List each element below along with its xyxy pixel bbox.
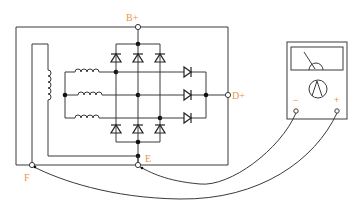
meter-plus-label: + (334, 95, 339, 105)
multimeter: − + (287, 42, 347, 119)
meter-gauge-arc (309, 63, 323, 70)
meter-minus-label: − (293, 95, 298, 105)
label-b-plus: B+ (126, 12, 139, 23)
terminal-b-plus[interactable] (135, 24, 140, 29)
rectifier-bridge (111, 30, 225, 162)
terminal-d-plus[interactable] (225, 92, 230, 97)
label-f: F (24, 172, 30, 183)
alternator-circuit-diagram: B+ D+ E F − + (0, 0, 363, 211)
stator-windings (63, 69, 160, 118)
label-d-plus: D+ (232, 90, 245, 101)
meter-minus-terminal[interactable] (294, 109, 298, 113)
label-e: E (145, 153, 151, 164)
meter-plus-terminal[interactable] (335, 109, 339, 113)
terminal-e[interactable] (135, 162, 140, 167)
exciter-diode-3 (184, 113, 191, 123)
test-lead-minus-to-e[interactable] (140, 113, 296, 184)
exciter-diode-2 (184, 90, 191, 100)
exciter-diode-1 (184, 67, 191, 77)
field-winding (32, 44, 138, 162)
